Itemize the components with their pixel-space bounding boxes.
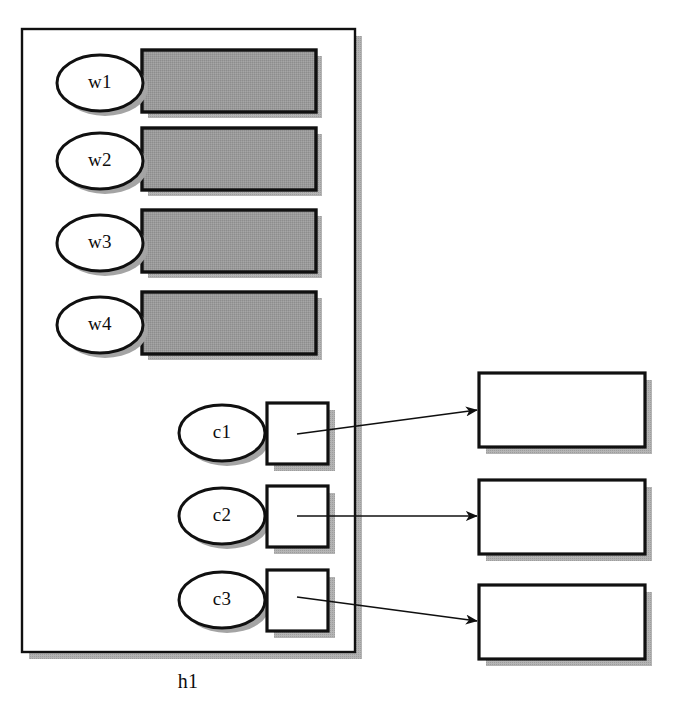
- worker-node-w2[interactable]: w2: [57, 128, 322, 196]
- diagram-canvas: w1 w2 w3 w4: [0, 0, 677, 712]
- channel-label-c3: c3: [213, 588, 232, 609]
- target-box-3[interactable]: [479, 585, 652, 666]
- worker-rect-w1[interactable]: [142, 50, 316, 112]
- worker-rect-w2[interactable]: [142, 128, 316, 190]
- worker-label-w2: w2: [88, 149, 112, 170]
- worker-label-w3: w3: [88, 231, 112, 252]
- worker-label-w1: w1: [88, 71, 112, 92]
- target-box-1-body[interactable]: [479, 373, 645, 447]
- target-box-2-body[interactable]: [479, 480, 645, 554]
- channel-label-c2: c2: [213, 504, 232, 525]
- worker-rect-w4[interactable]: [142, 292, 316, 354]
- worker-node-w3[interactable]: w3: [57, 210, 322, 278]
- container-label-h1: h1: [178, 670, 199, 692]
- worker-node-w4[interactable]: w4: [57, 292, 322, 360]
- target-box-2[interactable]: [479, 480, 652, 561]
- target-box-3-body[interactable]: [479, 585, 645, 659]
- worker-rect-w3[interactable]: [142, 210, 316, 272]
- target-box-1[interactable]: [479, 373, 652, 454]
- channel-label-c1: c1: [213, 421, 232, 442]
- worker-label-w4: w4: [88, 313, 112, 334]
- worker-node-w1[interactable]: w1: [57, 50, 322, 118]
